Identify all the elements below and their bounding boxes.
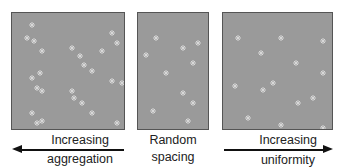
organism-mark-icon	[81, 62, 87, 68]
organism-mark-icon	[235, 35, 241, 41]
label-increasing-aggregation-bottom: aggregation	[40, 152, 120, 166]
organism-mark-icon	[260, 87, 266, 93]
organism-mark-icon	[69, 45, 75, 51]
organism-mark-icon	[150, 108, 156, 114]
organism-mark-icon	[77, 53, 83, 59]
organism-mark-icon	[114, 40, 120, 46]
organism-mark-icon	[320, 70, 326, 76]
organism-mark-icon	[89, 110, 95, 116]
panel-uniform	[222, 12, 333, 130]
points-uniform	[223, 13, 332, 129]
label-increasing-uniformity-bottom: uniformity	[248, 153, 328, 167]
organism-mark-icon	[270, 80, 276, 86]
organism-mark-icon	[34, 85, 40, 91]
organism-mark-icon	[99, 48, 105, 54]
arrow-right-head-icon	[323, 145, 333, 153]
organism-mark-icon	[29, 22, 35, 28]
panel-random	[137, 12, 209, 130]
arrow-aggregation-line	[20, 149, 124, 151]
organism-mark-icon	[109, 78, 115, 84]
organism-mark-icon	[190, 60, 196, 66]
label-increasing-aggregation-top: Increasing	[40, 133, 120, 147]
organism-mark-icon	[39, 48, 45, 54]
organism-mark-icon	[310, 95, 316, 101]
organism-mark-icon	[180, 90, 186, 96]
label-random-bottom: spacing	[140, 150, 206, 164]
arrow-uniformity-line	[224, 149, 324, 151]
panel-aggregated	[11, 12, 125, 130]
organism-mark-icon	[31, 38, 37, 44]
organism-mark-icon	[153, 35, 159, 41]
organism-mark-icon	[24, 35, 30, 41]
organism-mark-icon	[79, 100, 85, 106]
organism-mark-icon	[278, 35, 284, 41]
organism-mark-icon	[114, 120, 120, 126]
organism-mark-icon	[69, 88, 75, 94]
organism-mark-icon	[39, 88, 45, 94]
organism-mark-icon	[320, 125, 326, 129]
organism-mark-icon	[320, 38, 326, 44]
organism-mark-icon	[119, 80, 124, 86]
organism-mark-icon	[180, 45, 186, 51]
organism-mark-icon	[258, 50, 264, 56]
points-aggregated	[12, 13, 124, 129]
organism-mark-icon	[29, 75, 35, 81]
organism-mark-icon	[109, 30, 115, 36]
organism-mark-icon	[143, 52, 149, 58]
organism-mark-icon	[295, 100, 301, 106]
organism-mark-icon	[37, 70, 43, 76]
arrow-left-head-icon	[12, 145, 22, 153]
organism-mark-icon	[245, 115, 251, 121]
organism-mark-icon	[29, 110, 35, 116]
organism-mark-icon	[89, 68, 95, 74]
organism-mark-icon	[71, 95, 77, 101]
organism-mark-icon	[278, 122, 284, 128]
organism-mark-icon	[163, 70, 169, 76]
organism-mark-icon	[293, 60, 299, 66]
organism-mark-icon	[195, 40, 201, 46]
organism-mark-icon	[190, 100, 196, 106]
points-random	[138, 13, 208, 129]
organism-mark-icon	[232, 83, 238, 89]
organism-mark-icon	[185, 118, 191, 124]
label-increasing-uniformity-top: Increasing	[248, 133, 328, 147]
label-random-top: Random	[140, 133, 206, 147]
